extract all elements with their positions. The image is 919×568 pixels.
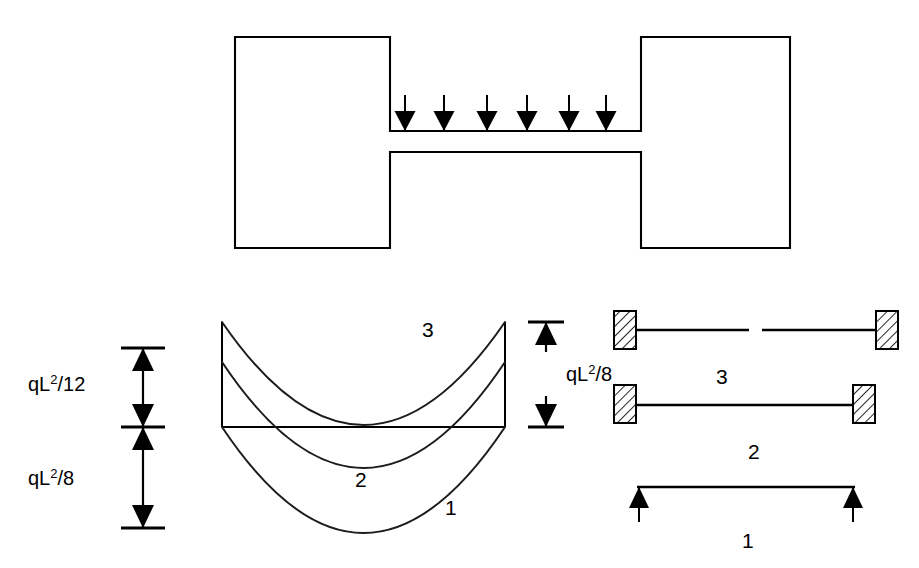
label-ql2-over-12-exponent: 2 [50, 372, 57, 387]
case-label-1: 1 [742, 529, 754, 552]
beam-support-cases-legend: 3 2 1 [614, 311, 898, 552]
load-arrow [395, 95, 416, 131]
case-label-3: 3 [716, 365, 728, 388]
bending-moment-diagram: 3 2 1 [222, 318, 505, 533]
moment-curve-label-1: 1 [445, 496, 457, 519]
case-3-fixed-fixed-hinged: 3 [614, 311, 898, 388]
label-ql2-over-12-base: qL [28, 373, 50, 395]
label-ql2-over-8-left: qL2/8 [28, 466, 74, 489]
load-arrow [434, 95, 455, 131]
case-1-simply-supported: 1 [629, 487, 863, 552]
moment-curve-3 [222, 322, 505, 425]
midspan-moment-dimension: qL2/8 [528, 322, 612, 427]
structure-outline [235, 37, 790, 248]
case-label-2: 2 [748, 440, 760, 463]
distributed-load [395, 95, 617, 131]
reaction-arrow-left [629, 487, 649, 522]
moment-curve-2 [222, 362, 505, 468]
label-ql2-over-8-right-denominator: /8 [595, 363, 612, 385]
label-ql2-over-8-right-base: qL [566, 363, 588, 385]
fixed-support-right-hatch [876, 311, 898, 349]
label-ql2-over-8-left-exponent: 2 [50, 466, 57, 481]
reaction-arrow-right [843, 487, 863, 522]
dimension-ql2-over-12 [132, 348, 154, 427]
beam-moment-figure: qL2/12 qL2/8 3 2 1 [0, 0, 919, 568]
label-ql2-over-8-left-denominator: /8 [57, 467, 74, 489]
load-arrow [559, 95, 580, 131]
fixed-support-right-hatch [853, 385, 875, 423]
moment-curve-label-3: 3 [422, 318, 434, 341]
load-arrow [477, 95, 498, 131]
fixed-support-left-hatch [614, 385, 636, 423]
label-ql2-over-8-right-exponent: 2 [588, 362, 595, 377]
label-ql2-over-12: qL2/12 [28, 372, 85, 395]
load-arrow [517, 95, 538, 131]
label-ql2-over-12-denominator: /12 [57, 373, 85, 395]
label-ql2-over-8-left-base: qL [28, 467, 50, 489]
case-2-fixed-fixed: 2 [614, 385, 875, 463]
moment-curve-label-2: 2 [355, 468, 367, 491]
figure-root: qL2/12 qL2/8 3 2 1 [0, 0, 919, 568]
dimension-ql2-over-8 [132, 427, 154, 528]
loaded-beam-elevation [235, 37, 790, 248]
moment-magnitude-dimensions: qL2/12 qL2/8 [28, 348, 165, 528]
load-arrow [596, 95, 617, 131]
label-ql2-over-8-right: qL2/8 [566, 362, 612, 385]
fixed-support-left-hatch [614, 311, 636, 349]
